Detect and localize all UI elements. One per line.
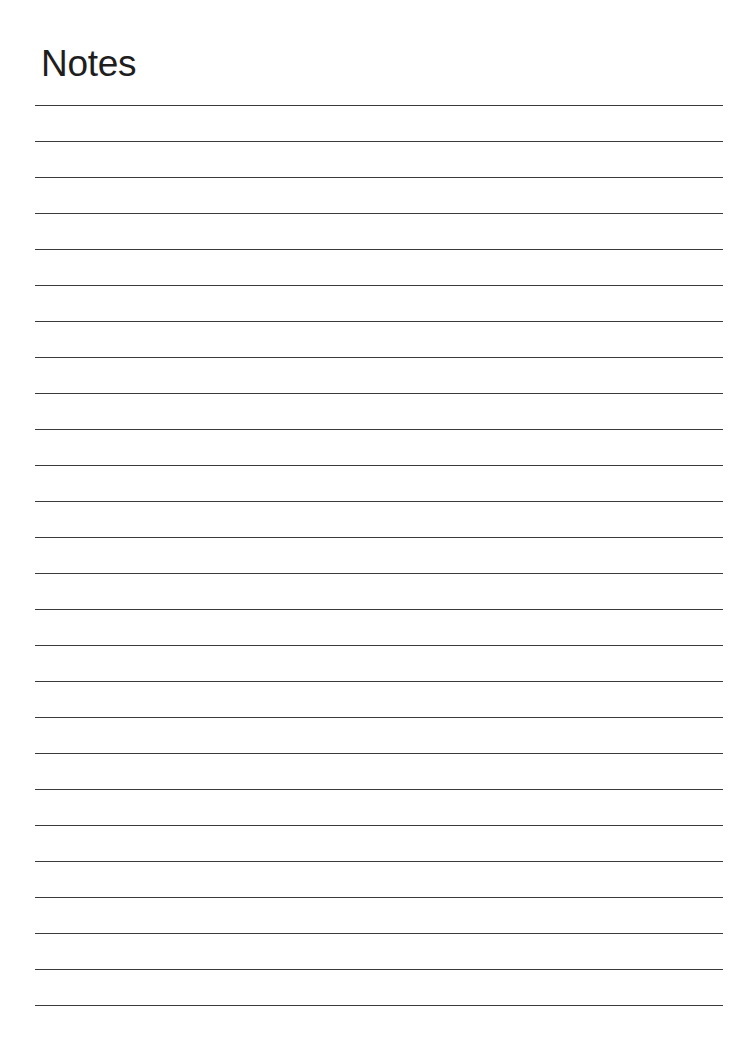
ruled-line [35,285,723,321]
ruled-line [35,789,723,825]
ruled-line [35,897,723,933]
ruled-line [35,861,723,897]
ruled-line [35,609,723,645]
ruled-line [35,141,723,177]
ruled-line [35,357,723,393]
ruled-line [35,249,723,285]
ruled-line [35,933,723,969]
ruled-line [35,969,723,1005]
ruled-line [35,825,723,861]
ruled-line [35,645,723,681]
ruled-line [35,537,723,573]
ruled-line [35,753,723,789]
ruled-line [35,177,723,213]
ruled-line [35,681,723,717]
ruled-line [35,429,723,465]
ruled-line [35,717,723,753]
page-title: Notes [41,44,136,84]
ruled-line [35,321,723,357]
ruled-line [35,213,723,249]
ruled-lines [35,105,723,1040]
ruled-line [35,1005,723,1040]
ruled-line [35,393,723,429]
ruled-line [35,465,723,501]
ruled-line [35,501,723,537]
ruled-line [35,105,723,141]
ruled-line [35,573,723,609]
